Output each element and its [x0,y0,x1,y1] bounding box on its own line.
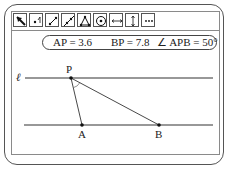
point-a[interactable] [80,123,84,127]
point-b[interactable] [157,123,161,127]
segment-pb[interactable] [71,78,159,125]
point-a-label: A [78,129,86,140]
line-l-label: ℓ [16,72,21,83]
segment-pa[interactable] [71,78,82,125]
point-b-label: B [155,129,162,140]
geometry-canvas[interactable] [0,0,231,169]
point-p-label: P [66,64,72,75]
angle-apb-arc [73,83,80,88]
point-p[interactable] [69,76,73,80]
